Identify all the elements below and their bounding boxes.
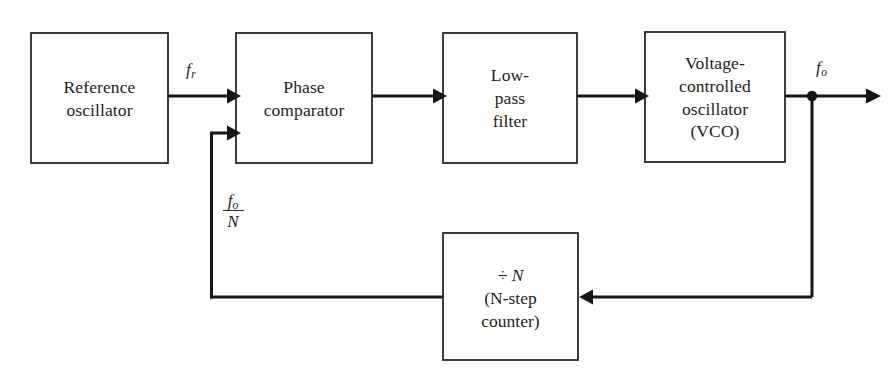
wire-comparator-to-filter bbox=[372, 89, 447, 104]
signal-label-feedback-fraction: fo N bbox=[216, 192, 250, 230]
signal-subscript: o bbox=[821, 66, 827, 78]
numerator-subscript: o bbox=[232, 199, 238, 211]
label-line: counter) bbox=[441, 310, 580, 333]
block-low-pass-filter bbox=[443, 33, 577, 163]
label-line: (N-step bbox=[441, 287, 580, 310]
wire-filter-to-vco bbox=[577, 89, 649, 104]
fraction-denominator: N bbox=[216, 211, 250, 230]
fraction-numerator: fo bbox=[216, 192, 250, 210]
wire-vco-output bbox=[785, 89, 881, 104]
signal-label-reference-frequency: fr bbox=[186, 60, 195, 80]
block-phase-comparator bbox=[236, 33, 372, 163]
block-voltage-controlled-oscillator bbox=[645, 32, 785, 162]
block-reference-oscillator bbox=[31, 33, 168, 163]
label-divide-by-n-counter: ÷ N (N-step counter) bbox=[441, 264, 580, 333]
block-diagram: Reference oscillator Phase comparator Lo… bbox=[0, 0, 895, 370]
signal-subscript: r bbox=[191, 68, 195, 80]
signal-label-output-frequency: fo bbox=[816, 58, 826, 78]
label-line: ÷ N bbox=[441, 264, 580, 287]
wire-reference-to-comparator bbox=[168, 89, 241, 104]
